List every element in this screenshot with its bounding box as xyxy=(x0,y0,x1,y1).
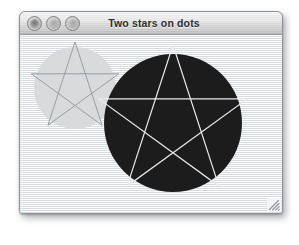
zoom-button[interactable] xyxy=(65,16,80,31)
drawing-canvas xyxy=(20,35,280,213)
window-titlebar[interactable]: Two stars on dots xyxy=(20,12,282,35)
small-dot xyxy=(34,47,116,129)
window-controls xyxy=(27,16,80,31)
shape-group xyxy=(31,42,247,192)
large-dot xyxy=(104,54,242,192)
resize-grip-icon[interactable] xyxy=(267,198,281,212)
app-window: Two stars on dots xyxy=(19,11,283,214)
window-content xyxy=(20,35,282,213)
minimize-button[interactable] xyxy=(46,16,61,31)
close-button[interactable] xyxy=(27,16,42,31)
